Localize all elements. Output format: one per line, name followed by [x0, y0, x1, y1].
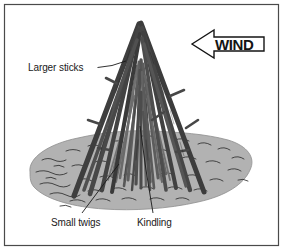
wind-arrow-label: WIND: [215, 36, 254, 53]
diagram-canvas: Larger sticks Small twigs Kindling WIND: [0, 0, 283, 252]
callout-label-larger-sticks: Larger sticks: [28, 62, 83, 73]
campfire-diagram: Larger sticks Small twigs Kindling WIND: [0, 0, 283, 252]
callout-label-small-twigs: Small twigs: [51, 217, 101, 228]
callout-label-kindling: Kindling: [137, 217, 172, 228]
